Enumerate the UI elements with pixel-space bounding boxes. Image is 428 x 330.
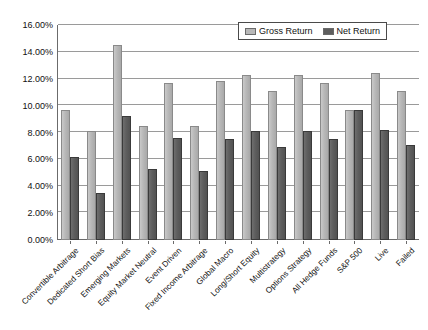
bar-group bbox=[367, 25, 393, 240]
bar-group bbox=[109, 25, 135, 240]
bar-face bbox=[406, 145, 415, 240]
bar-gross-return bbox=[397, 91, 406, 240]
x-axis: Convertible ArbitrageDedicated Short Bia… bbox=[57, 241, 419, 330]
bars-layer bbox=[57, 25, 419, 240]
bar-net-return bbox=[277, 147, 286, 240]
x-axis-tick bbox=[225, 241, 226, 244]
bar-gross-return bbox=[139, 126, 148, 240]
bar-chart: 0.00%2.00%4.00%6.00%8.00%10.00%12.00%14.… bbox=[0, 0, 428, 330]
x-axis-tick bbox=[199, 241, 200, 244]
x-axis-tick bbox=[148, 241, 149, 244]
legend-item: Gross Return bbox=[245, 26, 313, 36]
y-axis-tick-label: 8.00% bbox=[3, 128, 53, 138]
x-axis-tick bbox=[122, 241, 123, 244]
bar-net-return bbox=[303, 131, 312, 240]
bar-group bbox=[212, 25, 238, 240]
y-axis-tick-label: 6.00% bbox=[3, 154, 53, 164]
bar-group bbox=[264, 25, 290, 240]
bar-face bbox=[139, 126, 148, 240]
bar-face bbox=[345, 110, 354, 240]
bar-face bbox=[225, 139, 234, 240]
bar-face bbox=[216, 81, 225, 240]
bar-gross-return bbox=[61, 110, 70, 240]
bar-face bbox=[199, 171, 208, 240]
bar-net-return bbox=[380, 130, 389, 240]
bar-gross-return bbox=[345, 110, 354, 240]
bar-gross-return bbox=[371, 73, 380, 240]
x-axis-tick bbox=[251, 241, 252, 244]
bar-gross-return bbox=[320, 83, 329, 240]
legend-swatch-icon bbox=[245, 28, 256, 35]
x-axis-tick-label: Live bbox=[374, 246, 391, 263]
bar-face bbox=[70, 157, 79, 240]
bar-face bbox=[164, 83, 173, 240]
x-axis-tick bbox=[303, 241, 304, 244]
x-axis-tick bbox=[329, 241, 330, 244]
x-axis-tick-label: Failed bbox=[394, 246, 416, 268]
bar-face bbox=[190, 126, 199, 240]
bar-face bbox=[354, 110, 363, 240]
bar-group bbox=[393, 25, 419, 240]
bar-face bbox=[320, 83, 329, 240]
bar-group bbox=[57, 25, 83, 240]
bar-gross-return bbox=[113, 45, 122, 240]
bar-net-return bbox=[70, 157, 79, 240]
y-axis-tick-label: 14.00% bbox=[3, 47, 53, 57]
bar-net-return bbox=[173, 138, 182, 240]
x-axis-tick bbox=[173, 241, 174, 244]
bar-net-return bbox=[225, 139, 234, 240]
bar-gross-return bbox=[87, 131, 96, 240]
bar-group bbox=[290, 25, 316, 240]
bar-gross-return bbox=[190, 126, 199, 240]
y-axis-tick-label: 10.00% bbox=[3, 101, 53, 111]
bar-net-return bbox=[122, 116, 131, 240]
y-axis-tick-label: 0.00% bbox=[3, 235, 53, 245]
bar-face bbox=[87, 131, 96, 240]
bar-face bbox=[173, 138, 182, 240]
y-axis-tick-label: 2.00% bbox=[3, 208, 53, 218]
bar-face bbox=[371, 73, 380, 240]
bar-face bbox=[122, 116, 131, 240]
legend-label: Net Return bbox=[337, 26, 381, 36]
bar-net-return bbox=[251, 131, 260, 240]
x-axis-tick bbox=[354, 241, 355, 244]
x-axis-tick bbox=[96, 241, 97, 244]
bar-face bbox=[380, 130, 389, 240]
y-axis-tick-label: 12.00% bbox=[3, 74, 53, 84]
x-axis-tick-label: Options Strategy bbox=[264, 246, 313, 295]
bar-face bbox=[242, 75, 251, 240]
bar-group bbox=[316, 25, 342, 240]
bar-group bbox=[135, 25, 161, 240]
bar-net-return bbox=[199, 171, 208, 240]
bar-face bbox=[96, 193, 105, 240]
bar-group bbox=[186, 25, 212, 240]
bar-face bbox=[61, 110, 70, 240]
bar-gross-return bbox=[164, 83, 173, 240]
bar-gross-return bbox=[216, 81, 225, 240]
bar-face bbox=[113, 45, 122, 240]
legend-label: Gross Return bbox=[259, 26, 313, 36]
bar-face bbox=[329, 139, 338, 240]
bar-gross-return bbox=[242, 75, 251, 240]
bar-group bbox=[238, 25, 264, 240]
bar-face bbox=[251, 131, 260, 240]
x-axis-tick-label: All Hedge Funds bbox=[290, 246, 339, 295]
bar-gross-return bbox=[268, 91, 277, 240]
bar-net-return bbox=[96, 193, 105, 240]
bar-face bbox=[268, 91, 277, 240]
bar-net-return bbox=[354, 110, 363, 240]
bar-face bbox=[303, 131, 312, 240]
bar-net-return bbox=[329, 139, 338, 240]
bar-face bbox=[397, 91, 406, 240]
bar-face bbox=[294, 75, 303, 240]
bar-group bbox=[160, 25, 186, 240]
bar-net-return bbox=[148, 169, 157, 240]
x-axis-tick bbox=[380, 241, 381, 244]
bar-face bbox=[148, 169, 157, 240]
bar-group bbox=[83, 25, 109, 240]
x-axis-tick bbox=[277, 241, 278, 244]
y-axis: 0.00%2.00%4.00%6.00%8.00%10.00%12.00%14.… bbox=[0, 25, 53, 240]
legend-swatch-icon bbox=[323, 28, 334, 35]
bar-face bbox=[277, 147, 286, 240]
bar-gross-return bbox=[294, 75, 303, 240]
